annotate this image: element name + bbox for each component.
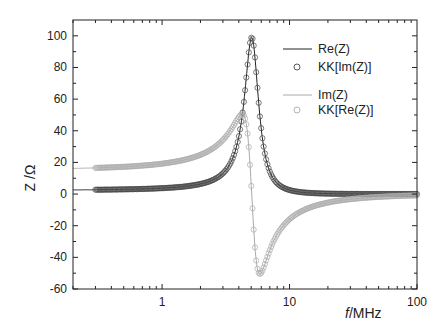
y-tick-label: -60	[50, 282, 68, 296]
y-tick-label: 0	[60, 187, 67, 201]
x-axis-label: f/MHz	[345, 305, 382, 321]
impedance-chart: -60-40-20020406080100110100 Re(Z) KK[Im(…	[0, 0, 444, 336]
y-tick-label: 40	[54, 124, 68, 138]
y-tick-label: -20	[50, 219, 68, 233]
legend-re: Re(Z)	[318, 42, 350, 56]
y-axis-label: Z /Ω	[22, 165, 38, 192]
y-tick-label: 60	[54, 92, 68, 106]
y-tick-label: 100	[47, 29, 67, 43]
legend-im: Im(Z)	[318, 88, 348, 102]
y-tick-label: 80	[54, 60, 68, 74]
x-tick-label: 1	[159, 295, 166, 309]
legend: Re(Z) KK[Im(Z)] Im(Z) KK[Re(Z)]	[283, 42, 374, 117]
legend-kk-im: KK[Im(Z)]	[318, 60, 371, 74]
x-tick-label: 10	[283, 295, 297, 309]
legend-kk-re: KK[Re(Z)]	[318, 103, 374, 117]
y-tick-label: -40	[50, 250, 68, 264]
x-tick-label: 100	[407, 295, 427, 309]
y-tick-label: 20	[54, 155, 68, 169]
